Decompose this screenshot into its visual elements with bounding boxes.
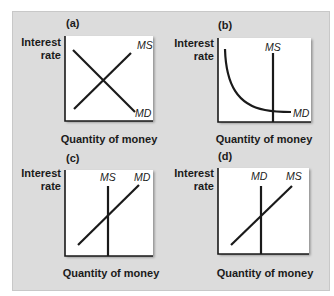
panel-a: (a) Interest rate MS MD Quantity of mone… (21, 17, 158, 145)
panel-a-ms-tag: MS (137, 39, 153, 51)
panel-a-label: (a) (66, 17, 80, 29)
panel-d-ylabel-1: Interest (174, 167, 214, 179)
panel-b-ms-tag: MS (265, 41, 281, 53)
panel-a-md-tag: MD (135, 107, 152, 119)
panel-d-ylabel-2: rate (194, 180, 214, 192)
panel-d-xlabel: Quantity of money (217, 267, 314, 279)
panel-a-ylabel-2: rate (41, 49, 61, 61)
panel-c-md-tag: MD (134, 171, 151, 183)
panel-c-xlabel: Quantity of money (63, 267, 160, 279)
panel-c-label: (c) (66, 152, 80, 164)
panel-d-ms-tag: MS (286, 170, 302, 182)
panel-b-ylabel-1: Interest (174, 37, 214, 49)
panel-d: (d) Interest rate MD MS Quantity of mone… (174, 150, 314, 279)
panel-c-ylabel-2: rate (41, 180, 61, 192)
panel-b: (b) Interest rate MS MD Quantity of mone… (174, 19, 313, 145)
panel-a-ylabel-1: Interest (21, 36, 61, 48)
panel-c: (c) Interest rate MS MD Quantity of mone… (21, 152, 160, 279)
panel-d-md-tag: MD (251, 170, 268, 182)
panel-c-ms-tag: MS (100, 171, 116, 183)
panel-d-label: (d) (218, 150, 232, 162)
panel-b-label: (b) (218, 19, 232, 31)
panel-b-xlabel: Quantity of money (216, 133, 313, 145)
panel-a-xlabel: Quantity of money (61, 133, 158, 145)
panel-b-md-tag: MD (293, 107, 310, 119)
panel-b-ylabel-2: rate (194, 50, 214, 62)
money-market-charts: (a) Interest rate MS MD Quantity of mone… (0, 0, 334, 296)
panel-c-ylabel-1: Interest (21, 167, 61, 179)
